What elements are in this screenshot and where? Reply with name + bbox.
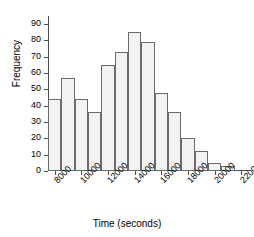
bars-layer (48, 16, 248, 171)
y-axis-tick: 40 (44, 106, 48, 107)
y-axis-tick: 30 (44, 122, 48, 123)
histogram-bar (128, 32, 141, 171)
histogram-bar (141, 42, 154, 171)
y-axis-tick-label: 30 (31, 116, 41, 126)
histogram-figure: Frequency 0102030405060708090 8000100001… (0, 0, 254, 237)
y-axis-tick: 50 (44, 89, 48, 90)
y-axis-tick: 0 (44, 171, 48, 172)
histogram-bar (101, 65, 114, 171)
y-axis-tick-label: 40 (31, 100, 41, 110)
y-axis-tick: 90 (44, 24, 48, 25)
histogram-bar (61, 78, 74, 171)
x-axis-title: Time (seconds) (0, 218, 254, 229)
y-axis-tick: 10 (44, 155, 48, 156)
y-axis-tick-label: 80 (31, 34, 41, 44)
histogram-bar (48, 99, 61, 171)
y-axis-tick-label: 20 (31, 132, 41, 142)
histogram-bar (181, 138, 194, 171)
y-axis-title: Frequency (11, 4, 22, 124)
y-axis-tick: 60 (44, 73, 48, 74)
y-axis-tick-label: 50 (31, 83, 41, 93)
y-axis-tick: 20 (44, 138, 48, 139)
y-axis-tick-label: 60 (31, 67, 41, 77)
y-axis-tick-label: 0 (36, 165, 41, 175)
plot-area: 0102030405060708090 (48, 16, 248, 171)
y-axis-tick: 80 (44, 40, 48, 41)
y-axis-tick-label: 90 (31, 18, 41, 28)
y-axis-tick: 70 (44, 57, 48, 58)
y-axis-tick-label: 10 (31, 149, 41, 159)
y-axis-tick-label: 70 (31, 51, 41, 61)
histogram-bar (75, 99, 88, 171)
histogram-bar (155, 93, 168, 171)
histogram-bar (115, 52, 128, 171)
